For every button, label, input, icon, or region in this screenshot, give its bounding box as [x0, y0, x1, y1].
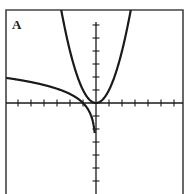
chart: A: [0, 0, 190, 194]
plot-area: A: [0, 0, 190, 194]
curves: [6, 1, 132, 133]
panel-label: A: [12, 17, 22, 32]
